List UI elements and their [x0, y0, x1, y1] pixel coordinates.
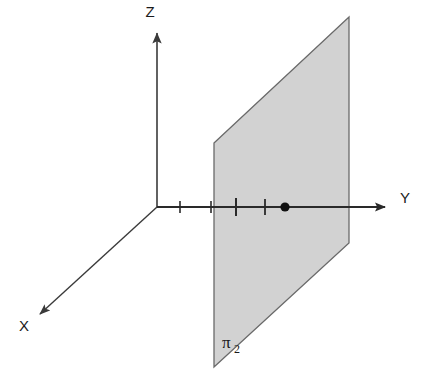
marked-point	[280, 202, 289, 211]
axis-x-line	[40, 207, 157, 314]
axis-label-y: Y	[400, 189, 410, 206]
axis-label-x: X	[19, 317, 29, 334]
plane-label-subscript: 2	[234, 342, 240, 356]
plane-pi2	[214, 17, 349, 367]
plane-label-pi: π	[222, 333, 231, 352]
figure-canvas: Z Y X π 2	[0, 0, 423, 389]
axis-label-z: Z	[145, 3, 154, 20]
diagram-svg: Z Y X π 2	[0, 0, 423, 389]
